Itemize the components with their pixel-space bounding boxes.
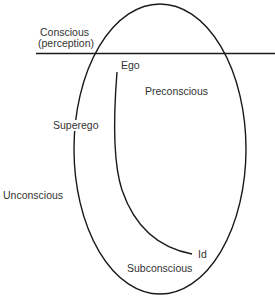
label-unconscious: Unconscious: [3, 190, 63, 201]
label-conscious-line2: (perception): [38, 38, 94, 49]
label-ego: Ego: [121, 60, 140, 71]
label-conscious: Conscious (perception): [38, 27, 94, 49]
label-preconscious: Preconscious: [145, 86, 208, 97]
label-superego: Superego: [52, 120, 100, 131]
ego-id-boundary-curve: [115, 72, 192, 254]
label-id: Id: [198, 249, 207, 260]
mind-ellipse: [74, 4, 246, 294]
label-subconscious: Subconscious: [127, 263, 192, 274]
